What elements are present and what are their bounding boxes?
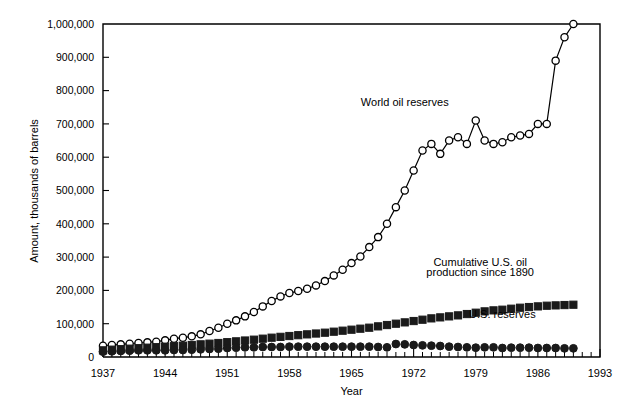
x-tick-label: 1937 bbox=[91, 367, 115, 379]
chart-canvas: 0100,000200,000300,000400,000500,000600,… bbox=[0, 0, 635, 412]
y-tick-label: 100,000 bbox=[56, 318, 94, 330]
x-tick-label: 1986 bbox=[526, 367, 550, 379]
data-point-filled-circle bbox=[179, 346, 187, 354]
data-point-open-circle bbox=[472, 117, 479, 124]
x-tick-label: 1951 bbox=[215, 367, 239, 379]
data-point-filled-circle bbox=[321, 343, 329, 351]
data-point-open-circle bbox=[437, 150, 444, 157]
data-point-filled-circle bbox=[490, 343, 498, 351]
data-point-filled-circle bbox=[241, 343, 249, 351]
data-point-open-circle bbox=[197, 331, 204, 338]
data-point-open-circle bbox=[304, 285, 311, 292]
y-tick-label: 200,000 bbox=[56, 284, 94, 296]
series-line-path bbox=[103, 24, 573, 346]
data-point-open-circle bbox=[410, 167, 417, 174]
data-point-filled-circle bbox=[294, 343, 302, 351]
data-point-filled-circle bbox=[569, 344, 577, 352]
data-point-open-circle bbox=[170, 335, 177, 342]
data-point-filled-square bbox=[437, 314, 444, 321]
data-point-filled-circle bbox=[268, 343, 276, 351]
data-point-filled-circle bbox=[374, 343, 382, 351]
x-tick-label: 1944 bbox=[153, 367, 177, 379]
x-tick-label: 1965 bbox=[339, 367, 363, 379]
data-point-open-circle bbox=[517, 132, 524, 139]
data-point-filled-circle bbox=[534, 344, 542, 352]
data-point-open-circle bbox=[241, 313, 248, 320]
data-point-filled-circle bbox=[410, 341, 418, 349]
data-point-filled-circle bbox=[516, 344, 524, 352]
series-1 bbox=[99, 20, 577, 349]
series-annotations: World oil reservesCumulative U.S. oilpro… bbox=[361, 96, 536, 320]
data-point-open-circle bbox=[401, 187, 408, 194]
data-point-open-circle bbox=[508, 134, 515, 141]
data-point-open-circle bbox=[295, 287, 302, 294]
data-point-filled-circle bbox=[356, 343, 364, 351]
data-point-filled-square bbox=[277, 333, 284, 340]
data-point-filled-square bbox=[286, 332, 293, 339]
data-point-filled-circle bbox=[214, 345, 222, 353]
data-point-filled-square bbox=[366, 324, 373, 331]
data-point-open-circle bbox=[543, 120, 550, 127]
data-point-open-circle bbox=[366, 244, 373, 251]
y-tick-label: 500,000 bbox=[56, 184, 94, 196]
data-point-filled-circle bbox=[552, 344, 560, 352]
data-point-filled-square bbox=[295, 332, 302, 339]
y-tick-label: 800,000 bbox=[56, 84, 94, 96]
data-point-filled-circle bbox=[108, 347, 116, 355]
data-point-filled-circle bbox=[561, 344, 569, 352]
data-point-open-circle bbox=[179, 334, 186, 341]
data-point-filled-square bbox=[428, 315, 435, 322]
data-point-open-circle bbox=[233, 317, 240, 324]
data-point-filled-circle bbox=[206, 345, 214, 353]
data-point-filled-square bbox=[312, 330, 319, 337]
data-point-open-circle bbox=[534, 120, 541, 127]
data-point-open-circle bbox=[215, 324, 222, 331]
data-point-open-circle bbox=[561, 34, 568, 41]
data-point-filled-circle bbox=[188, 346, 196, 354]
data-point-filled-circle bbox=[481, 343, 489, 351]
data-point-open-circle bbox=[463, 140, 470, 147]
data-point-open-circle bbox=[259, 303, 266, 310]
data-point-filled-circle bbox=[348, 343, 356, 351]
data-point-open-circle bbox=[250, 308, 257, 315]
data-point-filled-circle bbox=[339, 343, 347, 351]
data-point-filled-circle bbox=[427, 342, 435, 350]
data-point-filled-circle bbox=[312, 343, 320, 351]
x-tick-label: 1958 bbox=[277, 367, 301, 379]
data-point-filled-square bbox=[561, 301, 568, 308]
data-point-open-circle bbox=[348, 259, 355, 266]
data-point-open-circle bbox=[277, 293, 284, 300]
data-point-filled-square bbox=[259, 335, 266, 342]
data-point-filled-square bbox=[570, 301, 577, 308]
data-point-filled-circle bbox=[99, 348, 107, 356]
data-point-open-circle bbox=[375, 234, 382, 241]
data-point-filled-circle bbox=[143, 346, 151, 354]
data-point-filled-square bbox=[552, 302, 559, 309]
data-point-filled-circle bbox=[161, 346, 169, 354]
data-point-open-circle bbox=[224, 320, 231, 327]
data-point-filled-square bbox=[543, 302, 550, 309]
x-axis-title: Year bbox=[340, 385, 363, 397]
data-point-filled-square bbox=[339, 327, 346, 334]
data-point-filled-circle bbox=[126, 347, 134, 355]
data-point-open-circle bbox=[419, 147, 426, 154]
data-point-filled-square bbox=[410, 317, 417, 324]
data-point-open-circle bbox=[499, 139, 506, 146]
data-point-filled-square bbox=[357, 325, 364, 332]
data-point-filled-circle bbox=[445, 343, 453, 351]
data-point-filled-circle bbox=[197, 345, 205, 353]
y-tick-label: 0 bbox=[88, 351, 94, 363]
data-point-filled-circle bbox=[507, 344, 515, 352]
data-point-open-circle bbox=[268, 297, 275, 304]
chart-annotation: U.S. reserves bbox=[469, 308, 536, 320]
data-point-filled-square bbox=[454, 312, 461, 319]
data-point-open-circle bbox=[383, 220, 390, 227]
chart-annotation: production since 1890 bbox=[426, 266, 534, 278]
data-point-filled-circle bbox=[330, 343, 338, 351]
data-point-open-circle bbox=[570, 20, 577, 27]
data-point-open-circle bbox=[481, 137, 488, 144]
data-point-open-circle bbox=[392, 204, 399, 211]
data-point-filled-circle bbox=[117, 347, 125, 355]
data-point-filled-circle bbox=[543, 344, 551, 352]
y-tick-label: 300,000 bbox=[56, 251, 94, 263]
